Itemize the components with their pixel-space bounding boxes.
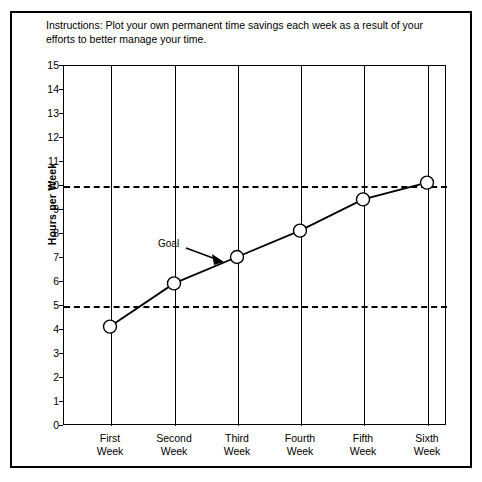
y-tick-mark — [59, 137, 63, 138]
y-tick-mark — [59, 305, 63, 306]
reference-line-10 — [64, 186, 447, 188]
y-tick-label: 15 — [37, 60, 59, 70]
x-tick-label: Fourth Week — [265, 432, 335, 457]
y-tick-label: 3 — [37, 348, 59, 358]
goal-annotation-label: Goal — [158, 238, 179, 249]
y-axis-title: Hours per Week — [46, 144, 58, 264]
y-tick-mark — [59, 329, 63, 330]
gridline-vertical — [301, 66, 302, 426]
y-tick-mark — [59, 89, 63, 90]
y-tick-label: 0 — [37, 420, 59, 430]
y-tick-mark — [59, 257, 63, 258]
gridline-vertical — [111, 66, 112, 426]
y-tick-label: 12 — [37, 132, 59, 142]
y-tick-label: 1 — [37, 396, 59, 406]
y-tick-mark — [59, 65, 63, 66]
x-tick-label: Fifth Week — [328, 432, 398, 457]
y-tick-label: 14 — [37, 84, 59, 94]
y-tick-label: 13 — [37, 108, 59, 118]
y-tick-mark — [59, 353, 63, 354]
y-tick-label: 6 — [37, 276, 59, 286]
gridline-vertical — [238, 66, 239, 426]
y-tick-mark — [59, 185, 63, 186]
x-tick-label: First Week — [75, 432, 145, 457]
y-tick-mark — [59, 377, 63, 378]
y-tick-mark — [59, 233, 63, 234]
y-tick-label: 4 — [37, 324, 59, 334]
instructions-text: Instructions: Plot your own permanent ti… — [46, 18, 446, 46]
worksheet-page: Instructions: Plot your own permanent ti… — [0, 0, 482, 482]
x-tick-label: Second Week — [139, 432, 209, 457]
y-tick-mark — [59, 209, 63, 210]
y-tick-mark — [59, 425, 63, 426]
y-tick-label: 2 — [37, 372, 59, 382]
x-tick-label: Sixth Week — [392, 432, 462, 457]
gridline-vertical — [364, 66, 365, 426]
y-tick-label: 5 — [37, 300, 59, 310]
gridline-vertical — [428, 66, 429, 426]
chart-plot-area — [63, 65, 446, 425]
reference-line-5 — [64, 306, 447, 308]
y-tick-mark — [59, 281, 63, 282]
y-tick-mark — [59, 401, 63, 402]
y-tick-mark — [59, 113, 63, 114]
y-tick-mark — [59, 161, 63, 162]
x-tick-label: Third Week — [202, 432, 272, 457]
